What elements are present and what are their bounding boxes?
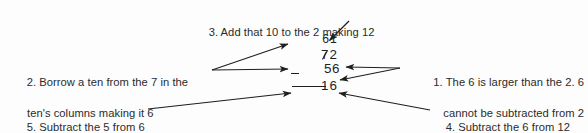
annotation-step-1-line1: 1. The 6 is larger than the 2. 6 — [433, 76, 584, 88]
annotation-step-3: 3. Add that 10 to the 2 making 12 — [196, 9, 375, 56]
annotation-step-4: 4. Subtract the 6 from 12 — [433, 104, 570, 133]
answer-row: 16 — [290, 77, 352, 93]
arrow-1-to-minuend — [346, 67, 400, 68]
annotation-step-2-line1: 2. Borrow a ten from the 7 in the — [27, 76, 188, 88]
subtrahend-row: 56 — [290, 62, 352, 77]
minus-operator-icon — [291, 73, 299, 74]
annotation-step-5-line1: 5. Subtract the 5 from 6 — [27, 121, 145, 133]
annotation-step-3-line1: 3. Add that 10 to the 2 making 12 — [209, 26, 375, 38]
annotation-step-4-line1: 4. Subtract the 6 from 12 — [446, 121, 570, 133]
subtraction-diagram: 61 72 56 16 3. Add that 10 to the 2 maki… — [0, 0, 588, 133]
subtraction-rule-line — [292, 86, 326, 87]
arrow-2-to-minuend — [212, 69, 288, 70]
annotation-step-5: 5. Subtract the 5 from 6 (in the ten's c… — [14, 104, 145, 133]
